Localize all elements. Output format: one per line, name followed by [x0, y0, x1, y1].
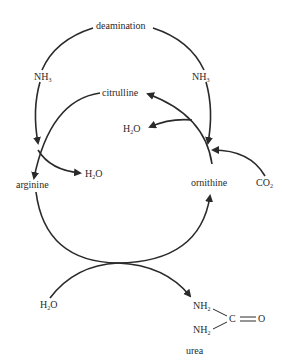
urea-nh2-bottom-label: NH2 — [193, 325, 210, 336]
urea-label: urea — [186, 346, 203, 356]
nh3-right-arrow — [206, 82, 211, 143]
urea-cycle-diagram: deamination NH3 NH3 citrulline H2O H2O a… — [0, 0, 282, 364]
h2o-arginine-label: H2O — [85, 169, 102, 180]
urea-bond-bottom — [213, 322, 227, 329]
ornithine-to-citrulline-arrow — [148, 94, 212, 164]
h2o-input-arc — [50, 263, 118, 298]
co2-label: CO2 — [256, 178, 273, 189]
ornithine-label: ornithine — [191, 178, 227, 188]
nh3-left-label: NH3 — [34, 72, 51, 83]
nh3-right-label: NH3 — [192, 72, 209, 83]
deamination-label: deamination — [96, 21, 145, 31]
arginine-to-ornithine-arc — [36, 192, 210, 263]
citrulline-to-arginine-arrow — [34, 93, 100, 178]
urea-carbon-label: C — [229, 314, 236, 324]
deamination-left-arc — [42, 28, 93, 70]
urea-output-arrow — [118, 263, 190, 296]
co2-arrow — [213, 150, 265, 176]
citrulline-h2o-arrow — [150, 120, 192, 127]
urea-bond-top — [213, 309, 227, 316]
urea-oxygen-label: O — [258, 314, 265, 324]
h2o-citrulline-label: H2O — [123, 124, 140, 135]
h2o-bottom-label: H2O — [40, 300, 57, 311]
arginine-h2o-arrow — [38, 150, 80, 173]
urea-nh2-top-label: NH2 — [193, 301, 210, 312]
arginine-label: arginine — [16, 180, 49, 190]
deamination-right-arc — [153, 28, 204, 70]
citrulline-label: citrulline — [102, 88, 138, 98]
nh3-left-arrow — [35, 82, 40, 143]
